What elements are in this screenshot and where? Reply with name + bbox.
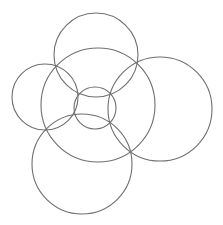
- small-center-circle: [74, 87, 116, 129]
- bottom-circle: [32, 114, 132, 214]
- circles-diagram: [0, 0, 223, 225]
- large-center-circle: [41, 48, 155, 162]
- left-circle: [12, 64, 78, 130]
- right-circle: [108, 57, 212, 161]
